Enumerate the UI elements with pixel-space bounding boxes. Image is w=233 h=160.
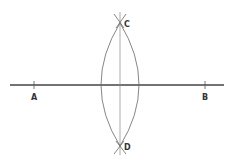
arc-mark-d-2	[114, 141, 124, 154]
label-b: B	[202, 93, 208, 102]
label-c: C	[124, 20, 130, 29]
label-a: A	[31, 93, 38, 102]
arc-mark-c-1	[114, 14, 124, 28]
label-d: D	[124, 143, 131, 152]
geometric-construction-diagram: A B C D	[0, 0, 233, 160]
